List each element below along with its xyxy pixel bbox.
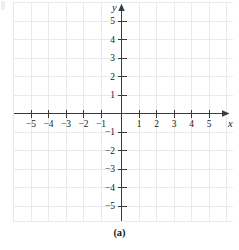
x-tick-label-4: 4: [184, 120, 200, 130]
x-tick-label--3: −3: [57, 120, 75, 130]
y-axis-label: y: [112, 3, 117, 14]
x-axis-label: x: [228, 119, 233, 130]
y-tick-label--1: −1: [92, 128, 115, 138]
x-tick-label-1: 1: [131, 120, 147, 130]
y-axis-arrowhead: [118, 4, 124, 11]
y-tick-label--2: −2: [92, 147, 115, 157]
y-tick-label-3: 3: [95, 54, 115, 64]
y-tick-label--3: −3: [92, 165, 115, 175]
x-tick-label--4: −4: [40, 120, 58, 130]
x-tick-label-3: 3: [166, 120, 182, 130]
y-tick-label-4: 4: [95, 36, 115, 46]
x-axis-arrowhead: [222, 110, 230, 116]
y-tick-label-2: 2: [95, 73, 115, 83]
y-tick-label--5: −5: [92, 202, 115, 212]
grid-lines-horizontal: [13, 3, 233, 222]
coordinate-plane-figure: −5 −4 −3 −2 −1 1 2 3 4 5 5 4 3 2 1 −1 −2…: [0, 0, 239, 250]
grid-lines-vertical: [14, 2, 227, 222]
y-tick-label-1: 1: [95, 91, 115, 101]
x-tick-label--2: −2: [75, 120, 93, 130]
figure-caption: (a): [0, 228, 239, 239]
x-tick-label-5: 5: [201, 120, 217, 130]
x-tick-label--5: −5: [22, 120, 40, 130]
y-tick-label--4: −4: [92, 184, 115, 194]
x-tick-label-2: 2: [149, 120, 165, 130]
y-tick-label-5: 5: [95, 17, 115, 27]
